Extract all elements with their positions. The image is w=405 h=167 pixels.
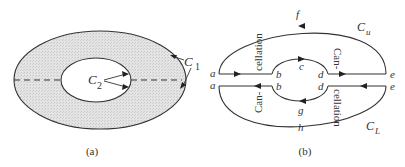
annotation-upper-left-cellation: cellation — [252, 33, 264, 71]
point-e-top: e — [390, 68, 395, 80]
label-cl-subscript: L — [374, 126, 380, 136]
point-h: h — [298, 121, 304, 133]
label-cu-subscript: u — [366, 27, 371, 37]
label-c1: C — [184, 54, 193, 69]
point-g: g — [298, 104, 304, 116]
label-c2-subscript: 2 — [97, 80, 102, 91]
annotation-lower-right-cellation: cellation — [332, 89, 344, 127]
arrow-e-to-d — [360, 83, 367, 89]
label-c1-subscript: 1 — [195, 61, 200, 72]
label-cu: C — [357, 20, 366, 34]
arrow-a-to-b — [234, 71, 241, 77]
point-a-top: a — [210, 67, 216, 79]
figure-a: C 1 C 2 (a) — [14, 31, 200, 158]
annotation-lower-left-can: Can- — [252, 91, 264, 113]
figure-b: a a b b c d d e e f g h C u C L cellatio… — [210, 8, 395, 158]
arrow-at-f — [298, 23, 305, 29]
point-e-bottom: e — [390, 80, 395, 92]
arrow-d-to-e — [339, 71, 346, 77]
annotation-upper-right-can: Can- — [332, 48, 344, 70]
label-cl: C — [366, 119, 375, 133]
point-d-top: d — [318, 68, 324, 80]
label-c2: C — [88, 72, 97, 87]
point-d-bottom: d — [318, 80, 324, 92]
point-c: c — [299, 60, 304, 72]
point-b-bottom: b — [276, 80, 282, 92]
point-a-bottom: a — [210, 79, 216, 91]
caption-b: (b) — [299, 145, 312, 158]
point-b-top: b — [276, 68, 282, 80]
contour-diagrams: C 1 C 2 (a) a a b — [0, 0, 405, 167]
point-f: f — [296, 8, 301, 20]
caption-a: (a) — [86, 145, 99, 158]
arrow-b-to-a — [254, 83, 261, 89]
